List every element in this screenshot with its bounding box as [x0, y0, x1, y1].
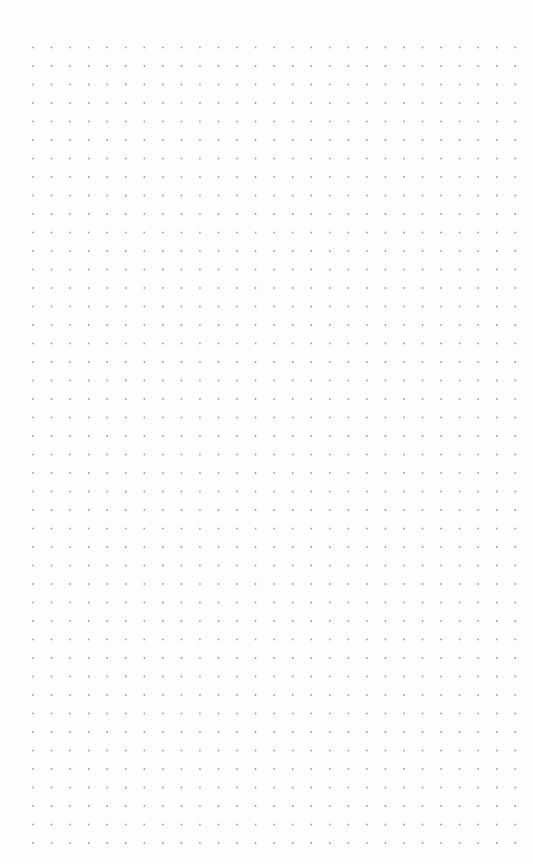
dot-grid-pattern [0, 0, 533, 864]
dotted-canvas[interactable] [0, 0, 533, 864]
